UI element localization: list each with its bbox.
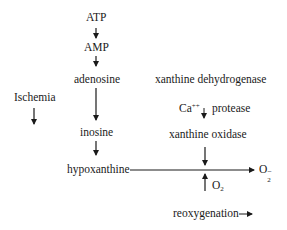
label-calcium: Ca++	[179, 103, 200, 115]
node-xanthine-dehydrogenase: xanthine dehydrogenase	[155, 74, 266, 86]
label-protease: protease	[212, 103, 250, 115]
node-amp: AMP	[84, 42, 109, 54]
calcium-charge: ++	[192, 102, 200, 110]
label-o2-input: O2	[212, 180, 224, 193]
label-reoxygenation: reoxygenation	[173, 208, 239, 220]
label-ischemia: Ischemia	[14, 92, 56, 104]
node-superoxide: O−2	[259, 164, 273, 176]
node-hypoxanthine: hypoxanthine	[67, 164, 130, 176]
node-inosine: inosine	[80, 127, 113, 139]
node-adenosine: adenosine	[74, 74, 120, 86]
arrow-layer	[0, 0, 287, 230]
node-atp: ATP	[86, 12, 106, 24]
node-xanthine-oxidase: xanthine oxidase	[169, 129, 247, 141]
